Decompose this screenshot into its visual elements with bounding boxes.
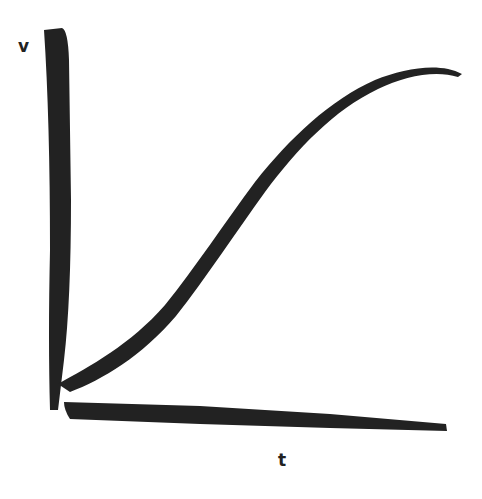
sketch-chart xyxy=(0,0,482,499)
curve-v-of-t xyxy=(58,67,462,392)
x-axis-label: t xyxy=(278,450,286,470)
y-axis xyxy=(44,28,71,410)
y-axis-label: v xyxy=(18,36,29,56)
x-axis xyxy=(64,402,447,431)
